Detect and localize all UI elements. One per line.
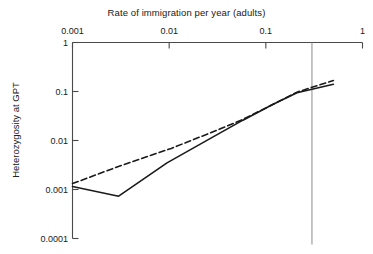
series-solid-curve <box>73 84 334 196</box>
y-tick-label-4: 0.0001 <box>24 234 68 244</box>
x-tick-label-3: 1 <box>360 26 365 36</box>
y-tick-label-3: 0.001 <box>24 185 68 195</box>
series-dashed-curve <box>73 80 334 183</box>
x-tick-label-1: 0.01 <box>160 26 178 36</box>
y-tick-label-0: 1 <box>24 38 68 48</box>
x-tick-label-0: 0.001 <box>61 26 84 36</box>
y-tick-label-2: 0.01 <box>24 136 68 146</box>
x-tick-label-2: 0.1 <box>260 26 273 36</box>
y-tick-label-1: 0.1 <box>24 87 68 97</box>
chart-figure: Rate of immigration per year (adults) He… <box>0 0 373 254</box>
